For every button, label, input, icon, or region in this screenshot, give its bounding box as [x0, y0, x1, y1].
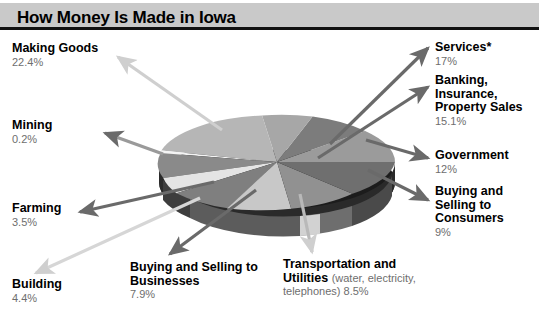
label-government: Government 12%: [435, 149, 539, 176]
label-name: Mining: [12, 119, 132, 133]
label-name: Buying and Selling to Consumers: [435, 185, 535, 226]
label-percent: 12%: [435, 163, 539, 176]
label-percent: 4.4%: [12, 292, 132, 305]
label-farming: Farming 3.5%: [12, 202, 142, 229]
label-making-goods: Making Goods 22.4%: [12, 42, 152, 69]
label-percent: 7.9%: [130, 288, 275, 301]
label-percent: 22.4%: [12, 56, 152, 69]
label-name: Banking, Insurance, Property Sales: [435, 74, 539, 115]
label-transportation-utilities: Transportation and Utilities (water, ele…: [283, 258, 431, 299]
page-title: How Money Is Made in Iowa: [17, 8, 236, 28]
label-percent: 0.2%: [12, 133, 132, 146]
label-name: Building: [12, 278, 132, 292]
label-banking-insurance-property-sales: Banking, Insurance, Property Sales 15.1%: [435, 74, 539, 128]
label-name: Services*: [435, 41, 539, 55]
label-mining: Mining 0.2%: [12, 119, 132, 146]
label-name: Buying and Selling to Businesses: [130, 261, 275, 288]
label-services: Services* 17%: [435, 41, 539, 68]
label-percent: 3.5%: [12, 216, 142, 229]
label-building: Building 4.4%: [12, 278, 132, 305]
label-name: Farming: [12, 202, 142, 216]
label-percent: 9%: [435, 226, 535, 239]
label-buying-selling-businesses: Buying and Selling to Businesses 7.9%: [130, 261, 275, 301]
label-percent: 17%: [435, 55, 539, 68]
label-buying-selling-consumers: Buying and Selling to Consumers 9%: [435, 185, 535, 239]
pie-chart: Making Goods 22.4% Mining 0.2% Farming 3…: [0, 30, 539, 314]
label-name: Government: [435, 149, 539, 163]
title-banner: How Money Is Made in Iowa: [0, 3, 539, 30]
label-name: Making Goods: [12, 42, 152, 56]
label-percent: 15.1%: [435, 115, 539, 128]
label-name: Transportation and Utilities (water, ele…: [283, 258, 431, 299]
